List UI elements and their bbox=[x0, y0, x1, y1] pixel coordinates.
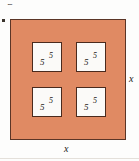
inner-square-bottom-right: 5 5 bbox=[76, 87, 106, 117]
inner-square-top-left: 5 5 bbox=[32, 42, 62, 72]
inner-square-top-right: 5 5 bbox=[76, 42, 106, 72]
outer-square-height-label: x bbox=[129, 73, 133, 84]
page-bottom-rule bbox=[0, 158, 139, 159]
inner-square-top-left-side-label: 5 bbox=[49, 51, 53, 60]
figure-page: igure. 5 5 5 5 5 5 5 5 x x bbox=[0, 0, 139, 161]
outer-orange-square: 5 5 5 5 5 5 5 5 bbox=[10, 19, 126, 140]
caption-clip-mask bbox=[0, 0, 139, 4]
inner-square-top-left-base-label: 5 bbox=[40, 57, 45, 67]
inner-square-bottom-left-base-label: 5 bbox=[40, 102, 45, 112]
inner-square-bottom-right-base-label: 5 bbox=[84, 102, 89, 112]
margin-bullet-icon bbox=[2, 19, 5, 22]
inner-square-bottom-right-side-label: 5 bbox=[93, 96, 97, 105]
inner-square-top-right-side-label: 5 bbox=[93, 51, 97, 60]
outer-square-width-label: x bbox=[64, 143, 68, 154]
inner-square-bottom-left-side-label: 5 bbox=[49, 96, 53, 105]
inner-square-bottom-left: 5 5 bbox=[32, 87, 62, 117]
inner-square-top-right-base-label: 5 bbox=[84, 57, 89, 67]
